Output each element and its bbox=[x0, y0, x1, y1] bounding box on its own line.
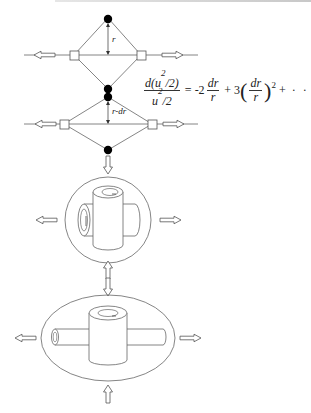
radius-label: r bbox=[112, 34, 116, 44]
down-arrow-icon bbox=[104, 278, 113, 296]
velocity-equation: d(u2/2) u2/2 = -2 dr r + 3 ( dr r ) 2 + … bbox=[142, 73, 311, 108]
right-arrow-icon bbox=[163, 120, 184, 128]
down-arrow-icon bbox=[104, 156, 113, 174]
term1-fraction: dr r bbox=[207, 77, 220, 104]
left-square-node bbox=[60, 120, 69, 129]
up-arrow-icon bbox=[104, 385, 113, 403]
left-arrow-icon bbox=[34, 51, 55, 59]
lhs-numerator-exponent: 2 bbox=[161, 68, 166, 78]
top-node bbox=[104, 93, 112, 101]
lhs-denominator: u bbox=[152, 94, 158, 108]
right-paren: ) bbox=[264, 81, 271, 101]
right-arrow-icon bbox=[162, 51, 183, 59]
term2-fraction: dr r bbox=[249, 77, 262, 104]
left-arrow-icon bbox=[35, 120, 56, 128]
term1-coefficient: -2 bbox=[195, 83, 205, 98]
right-arrow-icon bbox=[180, 334, 201, 342]
top-node bbox=[104, 15, 112, 23]
term2-exponent: 2 bbox=[271, 80, 276, 90]
sphere-panel bbox=[36, 177, 181, 263]
ellipsis: · · · bbox=[292, 83, 311, 98]
equals-sign: = bbox=[185, 83, 192, 98]
lhs-denominator-exponent: 2 bbox=[158, 86, 163, 96]
term2-numerator: dr bbox=[249, 77, 262, 91]
lhs-denominator-tail: /2 bbox=[163, 94, 172, 108]
left-arrow-icon bbox=[15, 334, 36, 342]
up-arrow-icon bbox=[104, 261, 113, 279]
vortex-stretching-diagram: r r-dr bbox=[0, 0, 311, 413]
right-arrow-icon bbox=[160, 216, 181, 224]
plus-sign: + bbox=[279, 83, 286, 98]
right-square-node bbox=[137, 51, 146, 60]
term1-denominator: r bbox=[210, 91, 217, 104]
right-square-node bbox=[148, 120, 157, 129]
radius-label: r-dr bbox=[112, 106, 127, 116]
left-square-node bbox=[70, 51, 79, 60]
left-paren: ( bbox=[240, 81, 247, 101]
term2-denominator: r bbox=[252, 91, 259, 104]
shared-node-upper bbox=[104, 85, 112, 93]
bottom-node bbox=[104, 146, 112, 154]
lhs-fraction: d(u2/2) u2/2 bbox=[144, 73, 180, 108]
left-arrow-icon bbox=[36, 216, 57, 224]
lhs-numerator-tail: /2) bbox=[166, 76, 179, 90]
term1-numerator: dr bbox=[207, 77, 220, 91]
ellipsoid-panel bbox=[15, 295, 201, 381]
plus-sign: + bbox=[224, 83, 231, 98]
